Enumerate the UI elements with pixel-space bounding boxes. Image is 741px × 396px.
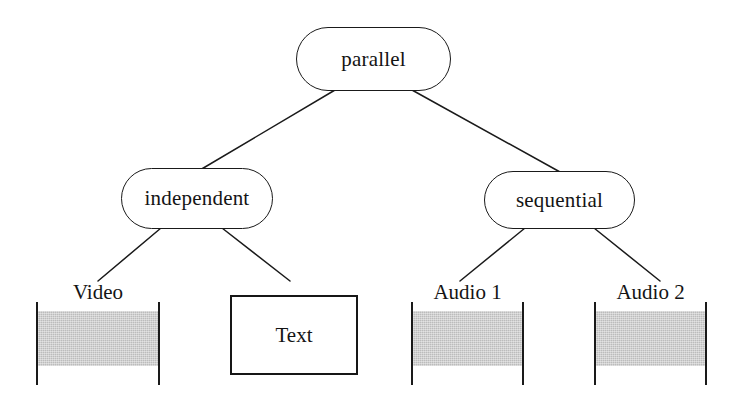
leaf-audio1-label: Audio 1 — [411, 282, 524, 303]
node-sequential-label: sequential — [516, 190, 603, 211]
node-parallel-label: parallel — [341, 49, 406, 70]
leaf-video-track[interactable]: Video — [36, 282, 160, 390]
edge-parallel-sequential — [412, 90, 560, 172]
edge-sequential-audio1 — [460, 228, 525, 281]
node-independent-label: independent — [145, 188, 250, 209]
node-sequential[interactable]: sequential — [484, 171, 635, 229]
leaf-text-label: Text — [275, 323, 312, 348]
leaf-audio1-track[interactable]: Audio 1 — [411, 282, 524, 390]
edge-independent-video — [98, 228, 161, 281]
audio1-track-end-bar — [522, 302, 524, 385]
node-independent[interactable]: independent — [121, 168, 273, 229]
edge-sequential-audio2 — [594, 228, 660, 281]
edge-parallel-independent — [200, 90, 335, 170]
leaf-audio2-label: Audio 2 — [594, 282, 707, 303]
node-parallel[interactable]: parallel — [296, 27, 451, 91]
video-track-end-bar — [158, 302, 160, 385]
audio2-track-end-bar — [705, 302, 707, 385]
leaf-audio2-track[interactable]: Audio 2 — [594, 282, 707, 390]
edge-independent-text — [222, 228, 290, 281]
audio1-track-band — [413, 311, 522, 366]
audio2-track-band — [596, 311, 705, 366]
leaf-video-label: Video — [36, 282, 160, 303]
diagram-canvas: parallel independent sequential Video Te… — [0, 0, 741, 396]
video-track-band — [38, 311, 158, 366]
leaf-text-box[interactable]: Text — [230, 295, 358, 375]
